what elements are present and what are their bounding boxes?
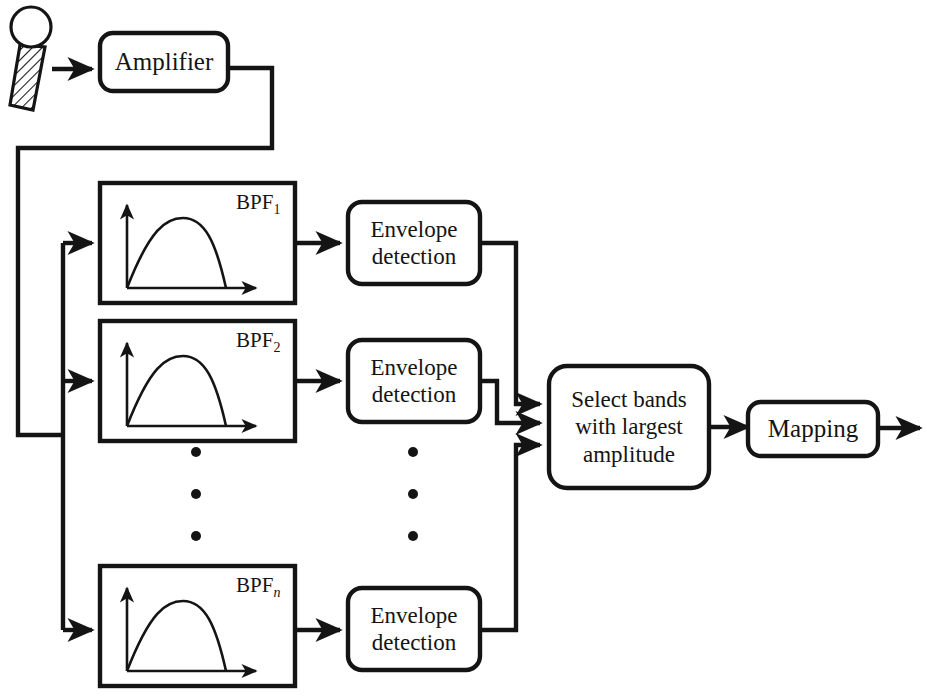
block-envelope-detection-n: [348, 588, 480, 670]
signal-flow-diagram: Amplifier BPF1 BPF2 BPFn Envelope detect…: [0, 0, 927, 699]
bpf-n-subscript: n: [273, 585, 280, 600]
block-mapping: [748, 402, 878, 456]
block-envelope-detection-2: [348, 340, 480, 422]
bpf-2-tag-text: BPF: [236, 328, 273, 352]
bpf-2-label: BPF2: [236, 328, 280, 356]
block-amplifier: [100, 33, 228, 91]
bpf-1-tag-text: BPF: [236, 190, 273, 214]
bpf-1-label: BPF1: [236, 190, 280, 218]
bpf-n-label: BPFn: [236, 573, 280, 601]
block-select-bands: [549, 366, 709, 488]
bpf-n-tag-text: BPF: [236, 573, 273, 597]
bpf-ellipsis: [191, 447, 201, 541]
block-envelope-detection-1: [348, 202, 480, 284]
envelope-ellipsis: [408, 447, 418, 541]
microphone-icon: [10, 7, 51, 110]
edge-envelopen-to-select: [480, 445, 540, 630]
diagram-canvas: [0, 0, 927, 699]
bpf-1-subscript: 1: [273, 202, 280, 217]
bpf-2-subscript: 2: [273, 340, 280, 355]
